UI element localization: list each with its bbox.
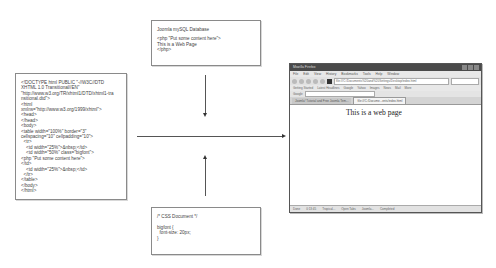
menu-file[interactable]: File (293, 71, 298, 77)
reload-icon[interactable] (306, 79, 311, 84)
navigation-toolbar: file:///C:/Documents%20and%20Settings/De… (290, 77, 481, 85)
css-document-box: /* CSS Document */ bigfont { font-size: … (151, 207, 261, 255)
status-item: 0:13:45 (306, 206, 316, 212)
menu-view[interactable]: View (314, 71, 321, 77)
css-code: /* CSS Document */ bigfont { font-size: … (157, 214, 255, 241)
stop-icon[interactable] (313, 79, 318, 84)
html-source-box: <!DOCTYPE html PUBLIC "-//W3C//DTD XHTML… (15, 73, 127, 200)
bookmark-item[interactable]: More (405, 85, 412, 91)
forward-icon[interactable] (299, 79, 304, 84)
web-page-text: This is a web page (346, 108, 402, 117)
search-box[interactable] (451, 78, 479, 85)
menu-history[interactable]: History (326, 71, 336, 77)
database-code: <php "Put some content here"> This is a … (157, 36, 255, 52)
status-item: Tropical... (322, 206, 335, 212)
menu-window[interactable]: Window (387, 71, 399, 77)
home-icon[interactable] (320, 79, 325, 84)
maximize-icon[interactable] (468, 65, 473, 70)
browser-title: Mozilla Firefox (293, 65, 316, 69)
tab-local-file[interactable]: file:///C:/Docume...ents/index.html (353, 97, 406, 104)
url-bar[interactable]: file:///C:/Documents%20and%20Settings/De… (334, 78, 449, 85)
database-content-box: Joomla mySQL Database <php "Put some con… (151, 20, 261, 66)
html-source-code: <!DOCTYPE html PUBLIC "-//W3C//DTD XHTML… (21, 80, 121, 194)
status-item: Joomla... (362, 206, 374, 212)
back-icon[interactable] (292, 79, 297, 84)
arrow-db-down (205, 75, 206, 114)
google-toolbar-label: Google (293, 92, 303, 96)
arrowhead-up-icon (203, 155, 207, 159)
arrowhead-down-icon (203, 113, 207, 117)
bookmark-item[interactable]: Mail (395, 85, 401, 91)
menu-edit[interactable]: Edit (303, 71, 309, 77)
menu-bookmarks[interactable]: Bookmarks (341, 71, 358, 77)
status-item: Open Tabs (341, 206, 355, 212)
extension-icon[interactable] (327, 79, 332, 84)
arrowhead-right-icon (282, 134, 286, 138)
browser-window: Mozilla Firefox File Edit View History B… (289, 63, 482, 213)
status-bar: Done 0:13:45 Tropical... Open Tabs Jooml… (290, 205, 481, 212)
database-title: Joomla mySQL Database (157, 27, 255, 32)
page-content: This is a web page (290, 105, 481, 202)
status-text: Done (293, 206, 300, 212)
menu-tools[interactable]: Tools (363, 71, 371, 77)
minimize-icon[interactable] (462, 65, 467, 70)
browser-titlebar: Mozilla Firefox (290, 64, 481, 71)
tab-bar: Joomla! Tutorial and Free Joomla Tem... … (290, 97, 481, 105)
close-icon[interactable] (474, 65, 479, 70)
menu-help[interactable]: Help (376, 71, 383, 77)
arrow-html-to-browser (137, 136, 283, 137)
bookmark-item[interactable]: News (384, 85, 392, 91)
tab-joomla[interactable]: Joomla! Tutorial and Free Joomla Tem... (292, 98, 351, 104)
arrow-css-up (205, 158, 206, 196)
status-item: Completed (380, 206, 395, 212)
